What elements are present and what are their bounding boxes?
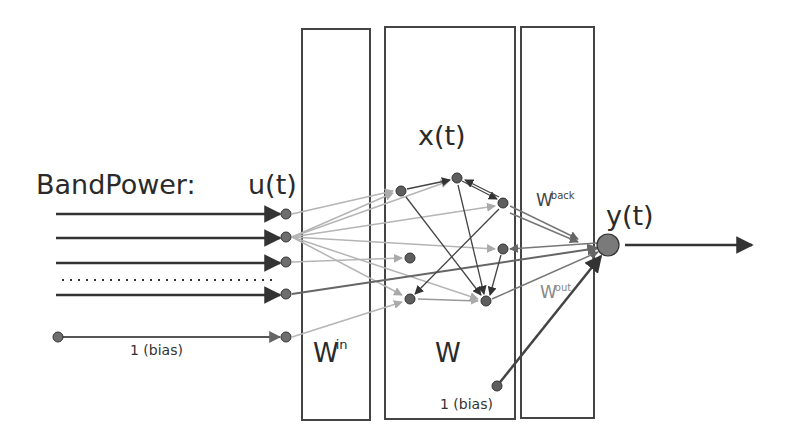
reservoir-connections bbox=[406, 180, 501, 295]
reservoir-x-label: x(t) bbox=[418, 122, 466, 149]
reservoir-node bbox=[452, 173, 462, 183]
output-y-label: y(t) bbox=[606, 202, 654, 229]
reservoir-node bbox=[498, 244, 508, 254]
reservoir-node bbox=[396, 186, 406, 196]
reservoir-node bbox=[498, 198, 508, 208]
reservoir-bias-node bbox=[492, 381, 502, 391]
reservoir-node bbox=[481, 296, 491, 306]
reservoir-bias-arrow bbox=[497, 256, 601, 386]
w-out-sup: out bbox=[555, 282, 571, 293]
input-u-label: u(t) bbox=[248, 171, 297, 198]
input-node bbox=[281, 257, 291, 267]
reservoir-bias-label: 1 (bias) bbox=[440, 397, 493, 411]
bandpower-label: BandPower: bbox=[36, 171, 196, 198]
reservoir-edge bbox=[418, 299, 478, 301]
w-back-label: Wback bbox=[536, 192, 575, 209]
reservoir-node bbox=[405, 294, 415, 304]
w-label: W bbox=[435, 340, 458, 366]
input-arrows bbox=[56, 214, 280, 295]
input-node bbox=[281, 332, 291, 342]
reservoir-node bbox=[405, 253, 415, 263]
input-bias-label: 1 (bias) bbox=[130, 343, 183, 357]
w-out-label: Wout bbox=[540, 284, 571, 301]
esn-diagram bbox=[0, 0, 786, 436]
w-in-sup: in bbox=[336, 337, 348, 352]
w-in-label: Win bbox=[313, 340, 348, 366]
input-node bbox=[281, 232, 291, 242]
input-nodes bbox=[53, 209, 291, 342]
output-node bbox=[597, 234, 619, 256]
w-out-base: W bbox=[540, 282, 555, 302]
w-in-base: W bbox=[313, 338, 336, 368]
win-connections bbox=[292, 181, 495, 337]
input-node bbox=[281, 289, 291, 299]
w-back-base: W bbox=[536, 190, 551, 210]
input-node bbox=[281, 209, 291, 219]
w-back-sup: back bbox=[551, 190, 575, 201]
input-bias-node bbox=[53, 332, 63, 342]
